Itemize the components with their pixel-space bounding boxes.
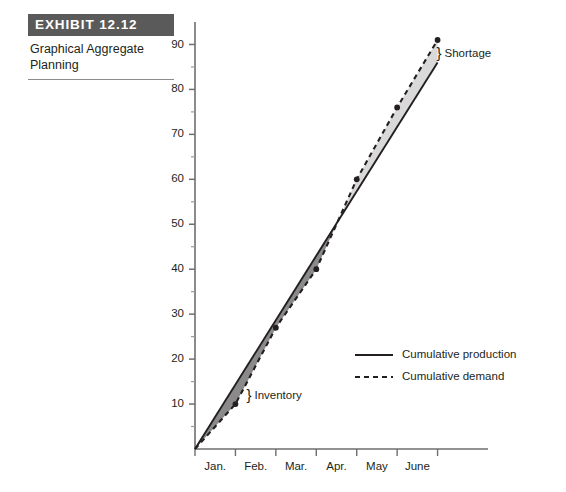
data-point-marker — [233, 401, 239, 407]
x-axis-ticks — [195, 449, 438, 456]
data-point-marker — [273, 325, 279, 331]
y-axis-tick-label: 60 — [171, 172, 184, 184]
y-axis-tick-label: 40 — [171, 262, 184, 274]
data-point-marker — [313, 266, 319, 272]
x-axis-tick-label: May — [366, 460, 388, 472]
y-axis-tick-label: 80 — [171, 82, 184, 94]
legend-label-production: Cumulative production — [402, 348, 516, 360]
y-axis-tick-label: 10 — [171, 397, 184, 409]
x-axis-tick-label: Jan. — [204, 460, 226, 472]
x-axis-tick-label: June — [405, 460, 430, 472]
x-axis-tick-labels: Jan.Feb.Mar.Apr.MayJune — [204, 460, 429, 472]
aggregate-planning-chart: 102030405060708090 Jan.Feb.Mar.Apr.MayJu… — [0, 0, 566, 492]
data-point-marker — [354, 176, 360, 182]
legend-label-demand: Cumulative demand — [402, 370, 504, 382]
y-axis-ticks — [189, 44, 195, 426]
y-axis-tick-label: 30 — [171, 307, 184, 319]
shortage-region — [338, 40, 438, 222]
y-axis-tick-labels: 102030405060708090 — [171, 38, 184, 410]
data-point-marker — [435, 37, 441, 43]
exhibit-page: EXHIBIT 12.12 Graphical Aggregate Planni… — [0, 0, 566, 492]
y-axis-tick-label: 70 — [171, 127, 184, 139]
x-axis-tick-label: Mar. — [285, 460, 307, 472]
x-axis-tick-label: Feb. — [244, 460, 267, 472]
shortage-brace: } — [437, 44, 442, 61]
data-point-marker — [394, 105, 400, 111]
y-axis-tick-label: 50 — [171, 217, 184, 229]
y-axis-tick-label: 90 — [171, 38, 184, 50]
axes: 102030405060708090 Jan.Feb.Mar.Apr.MayJu… — [171, 22, 488, 472]
cumulative-production-line — [195, 62, 438, 449]
y-axis-tick-label: 20 — [171, 352, 184, 364]
inventory-brace: } — [246, 386, 251, 403]
shortage-label: Shortage — [445, 47, 492, 59]
inventory-label: Inventory — [254, 389, 302, 401]
x-axis-tick-label: Apr. — [326, 460, 346, 472]
cumulative-demand-line — [195, 40, 438, 449]
chart-container: 102030405060708090 Jan.Feb.Mar.Apr.MayJu… — [0, 0, 566, 492]
chart-legend: Cumulative production Cumulative demand — [355, 348, 516, 382]
